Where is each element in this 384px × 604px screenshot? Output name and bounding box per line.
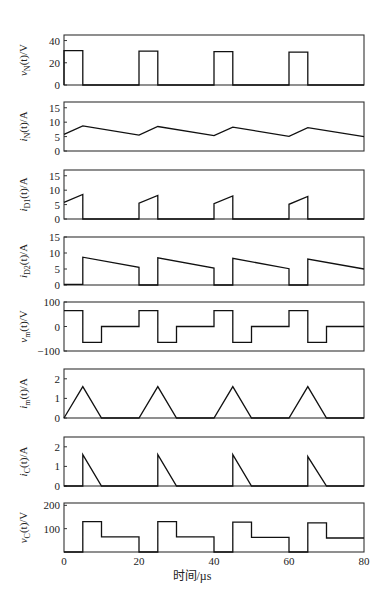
y-tick-label: 100 <box>44 523 61 535</box>
y-tick-label: 5 <box>55 199 61 211</box>
panel-5: 012im(t)/A <box>17 369 364 424</box>
y-tick-label: 0 <box>55 412 61 424</box>
panel-0: 02040vN(t)/V <box>17 35 364 91</box>
y-tick-label: 200 <box>44 499 61 511</box>
waveform-figure: 02040vN(t)/V051015iN(t)/A051015iD1(t)/A0… <box>0 0 384 604</box>
panel-2: 051015iD1(t)/A <box>17 170 364 225</box>
y-axis-label: vC(t)/V <box>17 512 32 544</box>
y-axis-label: iC(t)/A <box>17 447 32 477</box>
plot-frame <box>64 102 364 151</box>
y-tick-label: 1 <box>55 460 61 472</box>
y-tick-label: 0 <box>55 279 61 291</box>
panel-3: 051015iD2(t)/A <box>17 231 364 291</box>
y-tick-label: 10 <box>49 116 61 128</box>
y-tick-label: 15 <box>49 231 61 243</box>
waveform-line <box>64 311 364 343</box>
y-axis-label: iD1(t)/A <box>17 177 32 211</box>
waveform-line <box>64 195 364 220</box>
y-tick-label: 10 <box>49 184 61 196</box>
y-tick-label: 0 <box>55 321 61 333</box>
y-tick-label: 15 <box>49 170 61 182</box>
waveform-line <box>64 126 364 137</box>
waveform-line <box>64 455 364 486</box>
y-tick-label: 15 <box>49 102 61 114</box>
x-axis-label: 时间/µs <box>0 566 384 584</box>
y-tick-label: 100 <box>44 296 61 308</box>
y-tick-label: 40 <box>49 35 61 47</box>
panel-4: −1000100vm(t)/V <box>17 296 364 357</box>
y-axis-label: im(t)/A <box>17 378 32 409</box>
waveform-line <box>64 257 364 285</box>
y-axis-label: vm(t)/V <box>17 310 32 343</box>
waveform-line <box>64 51 364 85</box>
panel-7: 100200vC(t)/V <box>17 499 364 552</box>
y-tick-label: 5 <box>55 131 61 143</box>
waveform-line <box>64 387 364 418</box>
y-axis-label: vN(t)/V <box>17 44 32 76</box>
waveform-line <box>64 522 364 552</box>
y-tick-label: 1 <box>55 392 61 404</box>
y-tick-label: 0 <box>55 79 61 91</box>
y-axis-label: iN(t)/A <box>17 111 32 141</box>
y-tick-label: 2 <box>55 441 61 453</box>
y-tick-label: 0 <box>55 213 61 225</box>
panel-1: 051015iN(t)/A <box>17 102 364 157</box>
y-tick-label: 20 <box>49 57 61 69</box>
y-tick-label: 2 <box>55 373 61 385</box>
y-tick-label: 0 <box>55 145 61 157</box>
y-axis-label: iD2(t)/A <box>17 244 32 278</box>
y-tick-label: 0 <box>55 480 61 492</box>
y-tick-label: 5 <box>55 263 61 275</box>
y-tick-label: 10 <box>49 247 61 259</box>
plot-frame <box>64 369 364 418</box>
y-tick-label: −100 <box>37 345 60 357</box>
plot-frame <box>64 437 364 486</box>
panel-6: 012iC(t)/A <box>17 437 364 492</box>
